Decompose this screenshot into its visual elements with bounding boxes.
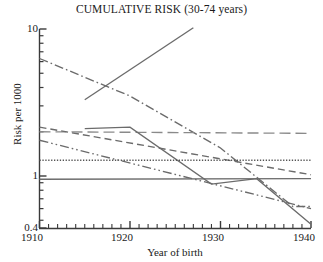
x-axis-ticks [40,221,312,228]
plot-area [0,0,323,262]
x-tick-label-1910: 1910 [21,231,43,243]
x-tick-label-1920: 1920 [111,231,133,243]
y-tick-label-1: 1 [33,169,39,181]
series-line-flat-solid-low [40,179,312,180]
series-line-flat-long-dash [40,132,312,134]
chart-figure: CUMULATIVE RISK (30-74 years) 10 1 0.4 1… [0,0,323,262]
x-tick-label-1930: 1930 [202,231,224,243]
x-axis-title: Year of birth [39,246,311,258]
x-tick-label-1940: 1940 [293,231,315,243]
y-axis-title: Risk per 1000 [11,49,23,179]
series-line-rising-solid [85,28,194,100]
data-series-layer [40,28,312,224]
y-tick-label-10: 10 [27,22,38,34]
series-line-declining-dashed [40,127,312,175]
